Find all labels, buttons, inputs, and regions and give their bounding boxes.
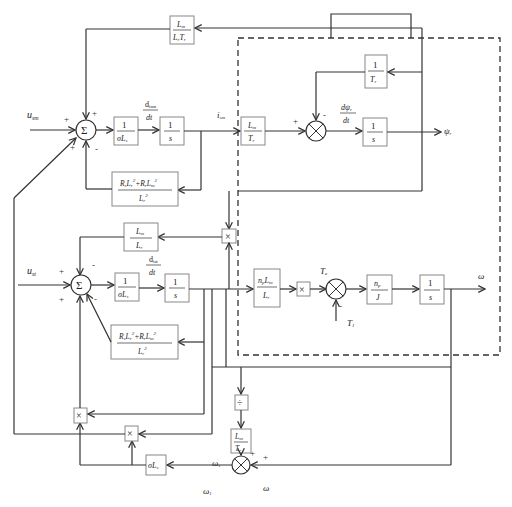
psi-r-output-label: ψr xyxy=(444,126,452,136)
sign-plus: + xyxy=(64,114,69,124)
sign-minus: - xyxy=(92,260,95,270)
omega-output-label: ω xyxy=(478,271,484,281)
svg-text:dψr: dψr xyxy=(341,103,352,112)
svg-text:1: 1 xyxy=(123,276,128,286)
sign-minus: - xyxy=(94,294,97,304)
svg-text:1: 1 xyxy=(373,60,378,70)
svg-text:ωs: ωs xyxy=(212,458,220,468)
svg-text:T1: T1 xyxy=(347,318,355,328)
sum-symbol-bottom: Σ xyxy=(76,279,82,291)
block-np-lm-lr xyxy=(254,269,280,307)
sign-plus: + xyxy=(59,294,64,304)
sign-plus: + xyxy=(59,266,64,276)
svg-text:×: × xyxy=(127,428,133,439)
svg-text:×: × xyxy=(76,410,82,421)
svg-text:ω: ω xyxy=(263,483,269,493)
svg-text:dt: dt xyxy=(149,268,156,277)
svg-text:×: × xyxy=(299,284,305,295)
svg-text:1: 1 xyxy=(122,120,127,130)
sum-symbol-top: Σ xyxy=(81,124,87,136)
sign-plus: + xyxy=(293,116,298,126)
sign-plus: + xyxy=(263,452,268,462)
motor-control-block-diagram: usm + Σ + + - 1 σLs dism dt 1 s ism RsLr… xyxy=(0,0,512,507)
svg-text:Te: Te xyxy=(320,266,328,276)
svg-text:dt: dt xyxy=(343,116,350,125)
svg-text:1: 1 xyxy=(173,277,178,287)
u-st-label: ust xyxy=(27,265,36,277)
u-sm-label: usm xyxy=(27,109,39,121)
svg-text:s: s xyxy=(169,134,172,143)
svg-text:÷: ÷ xyxy=(237,397,243,408)
svg-text:LrTr: LrTr xyxy=(172,33,186,42)
sign-minus: - xyxy=(339,301,342,311)
sign-plus: + xyxy=(250,448,255,458)
svg-text:1: 1 xyxy=(168,120,173,130)
sign-minus: - xyxy=(323,110,326,120)
sign-minus: - xyxy=(95,144,98,154)
svg-text:s: s xyxy=(372,135,375,144)
svg-text:×: × xyxy=(225,231,231,242)
svg-text:dt: dt xyxy=(146,113,153,122)
svg-text:ω1: ω1 xyxy=(203,486,212,496)
svg-text:1: 1 xyxy=(428,278,433,288)
svg-text:J: J xyxy=(376,293,380,302)
sign-plus: + xyxy=(92,108,97,118)
svg-text:s: s xyxy=(429,293,432,302)
svg-text:dism: dism xyxy=(145,100,156,109)
svg-text:ism: ism xyxy=(217,110,225,120)
svg-text:s: s xyxy=(174,291,177,300)
block-rs-bottom xyxy=(111,325,178,359)
svg-text:1: 1 xyxy=(371,121,376,131)
svg-text:dist: dist xyxy=(149,255,158,264)
